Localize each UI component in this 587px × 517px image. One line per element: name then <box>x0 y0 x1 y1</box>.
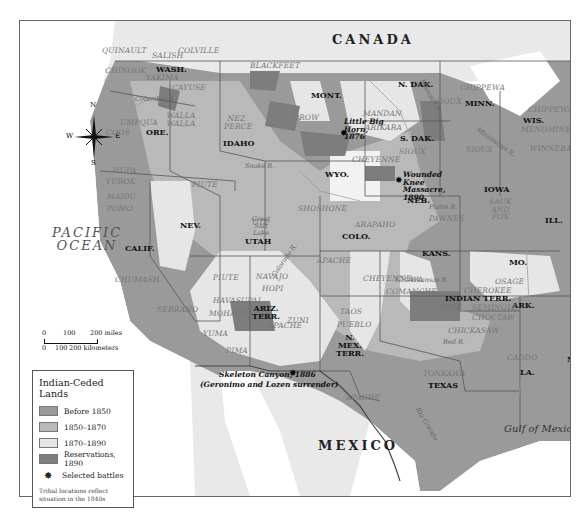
river-label-red: Red R. <box>443 339 465 346</box>
tribe-label-pawnee: PAWNEE <box>429 215 465 223</box>
tribe-label-cherokee: CHEROKEE <box>464 287 512 295</box>
tribe-label-walla-walla: WALLA WALLA <box>166 112 196 127</box>
tribe-label-comanche: COMANCHE <box>386 288 437 296</box>
tribe-label-yuma: YUMA <box>203 330 228 338</box>
legend-item-1850-1870: 1850–1870 <box>39 419 127 435</box>
tribe-label-pomo: POMO <box>107 205 133 213</box>
state-label-colo: COLO. <box>342 232 370 240</box>
tribe-label-apache-3: APACHE <box>346 394 380 402</box>
tribe-label-arapaho: ARAPAHO <box>355 221 395 229</box>
state-label-wis: WIS. <box>523 116 544 124</box>
state-label-mont: MONT. <box>311 91 342 99</box>
tribe-label-maidu: MAIDU <box>107 193 136 201</box>
tribe-label-crow: CROW <box>293 114 319 122</box>
river-label-platte: Platte R. <box>429 204 457 211</box>
scale-km-100: 100 <box>55 345 67 352</box>
tribe-label-pima: PIMA <box>226 347 248 355</box>
legend: Indian-Ceded Lands Before 1850 1850–1870… <box>32 370 134 508</box>
legend-swatch <box>39 406 58 416</box>
tribe-label-sioux-3: SIOUX <box>466 146 493 154</box>
battle-label-skeleton-canyon: Skeleton Canyon, 1886 <box>219 371 316 379</box>
legend-item-reservations: Reservations, 1890 <box>39 451 127 467</box>
tribe-label-winnebago: WINNEBAGO <box>530 145 571 153</box>
scale-miles-200: 200 miles <box>90 330 122 337</box>
battle-star-icon: ✸ <box>39 470 56 481</box>
tribe-label-tonkawa: TONKAWA <box>423 370 465 378</box>
tribe-label-umpqua: UMPQUA <box>120 119 158 127</box>
tribe-label-havasupai: HAVASUPAI <box>213 297 261 305</box>
tribe-label-osage: OSAGE <box>495 278 524 286</box>
tribe-label-sioux-2: SIOUX <box>399 148 426 156</box>
tribe-label-blackfeet: BLACKFEET <box>250 62 300 70</box>
state-label-iowa: IOWA <box>484 185 509 193</box>
state-label-wyo: WYO. <box>325 170 349 178</box>
compass-south: S <box>91 160 96 167</box>
tribe-label-choctaw: CHOCTAW <box>472 314 515 322</box>
legend-title: Indian-Ceded Lands <box>39 377 127 399</box>
tribe-label-hupa: HUPA <box>113 167 136 175</box>
legend-item-battles: ✸ Selected battles <box>39 467 127 483</box>
legend-item-1870-1890: 1870–1890 <box>39 435 127 451</box>
state-label-kans: KANS. <box>422 249 450 257</box>
compass-north: N <box>90 102 96 109</box>
tribe-label-caddo: CADDO <box>507 354 537 362</box>
tribe-label-chippewa-2: CHIPPEWA <box>528 106 571 114</box>
legend-label: Reservations, 1890 <box>64 450 127 468</box>
state-label-ill: ILL. <box>545 216 563 224</box>
state-label-idaho: IDAHO <box>223 139 254 147</box>
tribe-label-mohave: MOHAVE <box>209 310 247 318</box>
tribe-label-hopi: HOPI <box>262 285 284 293</box>
tribe-label-serrano: SERRANO <box>157 306 198 314</box>
compass-icon <box>71 109 117 165</box>
tribe-label-piute-2: PIUTE <box>213 274 239 282</box>
battle-label-wounded-knee: Wounded Knee Massacre, 1890 <box>403 171 463 201</box>
legend-swatch <box>39 454 58 464</box>
tribe-label-yurok: YUROK <box>106 178 136 186</box>
river-label-columbia: Columbia R. <box>135 96 175 103</box>
tribe-label-sauk-fox: SAUK AND FOX <box>483 198 518 221</box>
battle-star-icon: ✸ <box>289 369 297 378</box>
state-label-texas: TEXAS <box>428 381 458 389</box>
tribe-label-nez-perce: NEZ PERCE <box>224 115 249 130</box>
tribe-label-cheyenne-1: CHEYENNE <box>352 156 400 164</box>
battle-label-little-big-horn: Little Big Horn, 1876 <box>344 118 384 141</box>
legend-swatch <box>39 438 58 448</box>
battle-star-icon: ✸ <box>395 176 403 185</box>
tribe-label-seminole: SEMINOLE <box>472 304 518 312</box>
tribe-label-coos: COOS <box>106 129 130 137</box>
state-label-ariz: ARIZ. TERR. <box>251 304 281 320</box>
scale-miles-0: 0 <box>42 330 46 337</box>
tribe-label-zuni: ZUNI <box>287 317 309 325</box>
tribe-label-chickasaw: CHICKASAW <box>448 327 499 335</box>
tribe-label-piute-1: PIUTE <box>192 181 218 189</box>
tribe-label-colville: COLVILLE <box>178 47 219 55</box>
river-label-arkansas: Arkansas R. <box>409 277 448 284</box>
tribe-label-pueblo: PUEBLO <box>337 321 372 329</box>
legend-swatch <box>39 422 58 432</box>
state-label-wash: WASH. <box>156 65 187 73</box>
state-label-mo: MO. <box>509 258 527 266</box>
compass-west: W <box>66 133 73 140</box>
state-label-la: LA. <box>520 368 535 376</box>
battle-label-skeleton-note: (Geronimo and Lozen surrender) <box>200 381 338 389</box>
state-label-utah: UTAH <box>245 237 271 245</box>
ocean-label-pacific: PACIFIC OCEAN <box>52 226 122 252</box>
tribe-label-chumash: CHUMASH <box>115 276 160 284</box>
tribe-label-menominee: MENOMINEE <box>521 126 571 134</box>
tribe-label-creek: CREEK <box>433 304 462 312</box>
state-label-indian-terr: INDIAN TERR. <box>445 294 511 302</box>
tribe-label-cayuse: CAYUSE <box>172 84 206 92</box>
tribe-label-chippewa-1: CHIPPEWA <box>460 84 505 92</box>
lake-label-great-salt: Great Salt Lake <box>250 216 272 237</box>
tribe-label-shoshone: SHOSHONE <box>298 205 347 213</box>
scale-miles-100: 100 <box>63 330 75 337</box>
state-label-minn: MINN. <box>465 99 495 107</box>
state-label-nev: NEV. <box>180 221 201 229</box>
legend-label: Before 1850 <box>64 407 111 416</box>
state-label-miss: MISS. <box>567 355 571 363</box>
tribe-label-quinault: QUINAULT <box>102 47 147 55</box>
tribe-label-apache-1: APACHE <box>317 257 351 265</box>
scale-bar: 0 100 200 miles 0 100 200 kilometers <box>38 330 128 360</box>
battle-star-icon: ✸ <box>340 129 348 138</box>
legend-label: 1870–1890 <box>64 439 106 448</box>
